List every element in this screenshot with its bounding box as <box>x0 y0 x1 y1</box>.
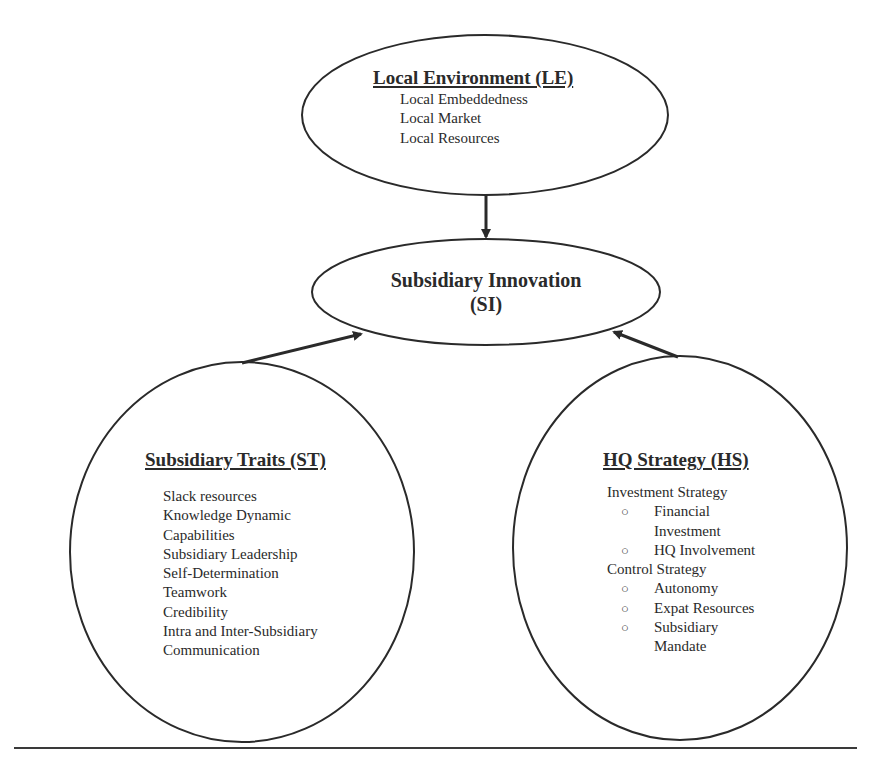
hs-sub-item-label: HQ Involvement <box>654 542 755 558</box>
hq-strategy-title: HQ Strategy (HS) <box>603 450 749 469</box>
st-item: Knowledge Dynamic <box>163 506 318 525</box>
circle-bullet-icon: ○ <box>621 599 629 618</box>
st-item: Capabilities <box>163 526 318 545</box>
hs-sub-item: ○ HQ Involvement <box>607 541 764 560</box>
st-item: Slack resources <box>163 487 318 506</box>
hs-sub-item-label: Financial Investment <box>654 503 721 538</box>
subsidiary-innovation-title: Subsidiary Innovation (SI) <box>312 268 660 316</box>
si-title-line2: (SI) <box>312 292 660 316</box>
hs-group-label: Investment Strategy <box>607 483 784 502</box>
st-item: Credibility <box>163 603 318 622</box>
hq-strategy-items: Investment Strategy ○ Financial Investme… <box>607 483 784 657</box>
hs-sub-item-label: Expat Resources <box>654 600 754 616</box>
hs-sub-item: ○ Financial Investment <box>607 502 764 541</box>
circle-bullet-icon: ○ <box>621 618 629 637</box>
circle-bullet-icon: ○ <box>621 541 629 560</box>
hs-sub-item: ○ Autonomy <box>607 579 764 598</box>
subsidiary-traits-items: Slack resources Knowledge Dynamic Capabi… <box>163 487 318 661</box>
st-item: Subsidiary Leadership <box>163 545 318 564</box>
le-item: Local Embeddedness <box>400 90 528 109</box>
hs-sub-item: ○ Subsidiary Mandate <box>607 618 764 657</box>
hs-sub-item: ○ Expat Resources <box>607 599 784 618</box>
st-item: Communication <box>163 641 318 660</box>
circle-bullet-icon: ○ <box>621 579 629 598</box>
arrow-hs-to-si <box>614 332 678 357</box>
st-item: Teamwork <box>163 583 318 602</box>
le-item: Local Resources <box>400 129 528 148</box>
st-item: Self-Determination <box>163 564 318 583</box>
hs-group-label: Control Strategy <box>607 560 784 579</box>
arrow-st-to-si <box>242 334 361 363</box>
le-item: Local Market <box>400 109 528 128</box>
local-environment-items: Local Embeddedness Local Market Local Re… <box>400 90 528 148</box>
circle-bullet-icon: ○ <box>621 502 629 521</box>
hs-sub-item-label: Autonomy <box>654 580 718 596</box>
si-title-line1: Subsidiary Innovation <box>312 268 660 292</box>
subsidiary-traits-title: Subsidiary Traits (ST) <box>145 450 326 469</box>
hs-sub-item-label: Subsidiary Mandate <box>654 619 718 654</box>
local-environment-title: Local Environment (LE) <box>373 68 573 87</box>
st-item: Intra and Inter-Subsidiary <box>163 622 318 641</box>
